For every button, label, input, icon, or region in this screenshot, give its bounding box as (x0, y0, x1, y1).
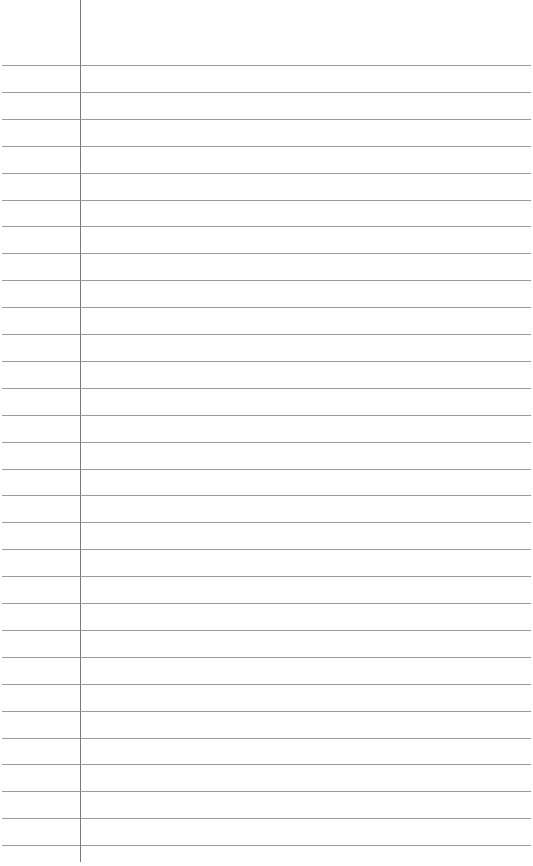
ruled-line (2, 65, 531, 66)
ruled-line (2, 307, 531, 308)
ruled-line (2, 684, 531, 685)
ruled-line (2, 818, 531, 819)
ruled-line (2, 549, 531, 550)
ruled-line (2, 388, 531, 389)
ruled-line (2, 146, 531, 147)
ruled-line (2, 764, 531, 765)
ruled-line (2, 522, 531, 523)
ruled-line (2, 119, 531, 120)
lined-paper-page (0, 0, 533, 866)
ruled-line (2, 442, 531, 443)
ruled-line (2, 200, 531, 201)
ruled-line (2, 711, 531, 712)
ruled-line (2, 173, 531, 174)
ruled-line (2, 226, 531, 227)
ruled-line (2, 603, 531, 604)
ruled-line (2, 469, 531, 470)
ruled-line (2, 657, 531, 658)
ruled-line (2, 334, 531, 335)
ruled-line (2, 738, 531, 739)
margin-line (80, 0, 81, 862)
ruled-line (2, 415, 531, 416)
ruled-line (2, 361, 531, 362)
ruled-line (2, 495, 531, 496)
ruled-line (2, 630, 531, 631)
ruled-line (2, 845, 531, 846)
ruled-line (2, 576, 531, 577)
ruled-line (2, 791, 531, 792)
ruled-line (2, 92, 531, 93)
ruled-line (2, 253, 531, 254)
ruled-line (2, 280, 531, 281)
